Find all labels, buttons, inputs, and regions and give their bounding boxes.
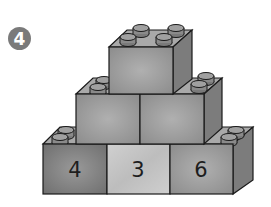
brick-pyramid: 4 3 6 <box>0 0 271 207</box>
brick-top <box>109 47 173 94</box>
top-row <box>109 25 192 95</box>
brick-middle-left <box>76 94 140 144</box>
brick-bottom-middle-value: 3 <box>131 158 144 182</box>
brick-bottom-left-value: 4 <box>68 158 81 182</box>
brick-bottom-right-value: 6 <box>194 158 207 182</box>
brick-middle-right <box>140 94 204 144</box>
